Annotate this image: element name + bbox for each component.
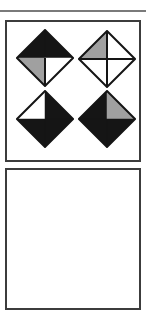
diamond-quadrant-icon <box>16 29 74 87</box>
diamond-quadrant-icon <box>78 90 136 148</box>
diamond-icon-top-right <box>78 30 136 88</box>
top-divider <box>0 10 146 12</box>
diamond-icon-bottom-left <box>16 90 74 148</box>
symbols-panel <box>5 20 141 162</box>
diamond-icon-bottom-right <box>78 90 136 148</box>
diamond-quadrant-icon <box>16 90 74 148</box>
empty-panel <box>5 168 141 310</box>
diamond-icon-top-left <box>16 29 74 87</box>
diamond-grid <box>7 22 139 160</box>
diamond-quadrant-icon <box>78 30 136 88</box>
